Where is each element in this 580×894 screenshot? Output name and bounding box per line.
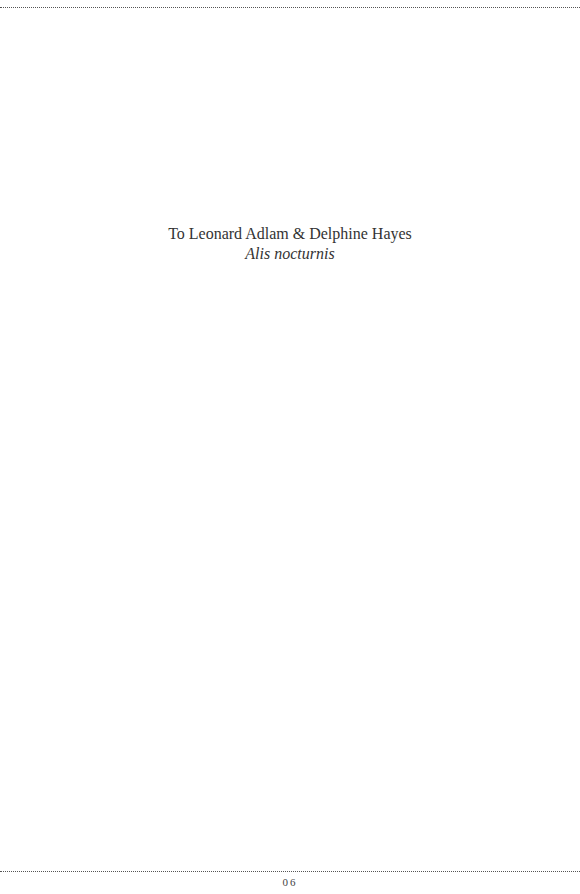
dedication-line: To Leonard Adlam & Delphine Hayes [0,224,580,244]
bottom-dotted-rule [0,871,580,872]
page-number: 06 [0,876,580,888]
motto: Alis nocturnis [0,244,580,264]
dedication-block: To Leonard Adlam & Delphine Hayes Alis n… [0,224,580,264]
top-dotted-rule [0,7,580,8]
